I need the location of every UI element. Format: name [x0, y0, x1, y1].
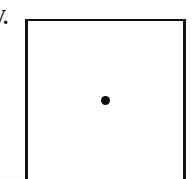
center-point-marker — [101, 96, 110, 105]
item-label: V. — [0, 4, 17, 30]
item-label-clip: V. — [0, 4, 17, 32]
figure-canvas: V. — [0, 0, 193, 179]
